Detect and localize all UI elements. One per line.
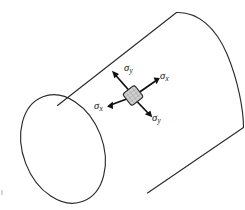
- stress-element-block: [122, 85, 143, 106]
- scan-speck: [1, 190, 3, 195]
- sigma-y-bottom-label: σy: [152, 113, 161, 125]
- sigma-y-bottom-subscript: y: [157, 117, 161, 125]
- cylinder-top-edge: [58, 13, 177, 106]
- sigma-x-lower-left-arrow: [107, 99, 128, 109]
- sigma-x-left-label: σx: [94, 101, 103, 113]
- cylinder-body: [6, 12, 244, 210]
- sigma-y-top-subscript: y: [129, 67, 133, 75]
- sigma-x-right-label: σx: [160, 71, 169, 83]
- sigma-x-right-subscript: x: [165, 75, 169, 83]
- cylinder-bottom-edge: [148, 128, 244, 194]
- sigma-y-lower-right-arrow: [137, 101, 153, 117]
- figure-root: σy σx σx σy: [0, 0, 245, 210]
- arrowhead-down-left: [107, 102, 113, 109]
- cylinder-far-end-arc: [177, 12, 244, 127]
- sigma-y-top-label: σy: [124, 63, 133, 75]
- sigma-x-upper-right-arrow: [138, 78, 160, 94]
- sigma-x-left-subscript: x: [99, 105, 103, 113]
- cylinder-stress-diagram: [0, 0, 245, 210]
